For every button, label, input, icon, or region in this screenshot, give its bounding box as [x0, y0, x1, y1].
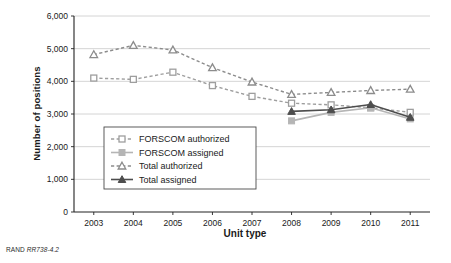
source-note-prefix: RAND: [6, 246, 27, 253]
x-tick-label: 2008: [282, 218, 301, 228]
x-tick-label: 2003: [84, 218, 103, 228]
y-tick-label: 4,000: [47, 76, 69, 86]
y-tick-label: 1,000: [47, 174, 69, 184]
y-tick-label: 6,000: [47, 11, 69, 21]
legend-label: FORSCOM assigned: [139, 148, 224, 158]
x-tick-label: 2004: [124, 218, 143, 228]
y-tick-labels: 01,0002,0003,0004,0005,0006,000: [47, 11, 74, 217]
legend-label: Total assigned: [139, 175, 197, 185]
chart-figure: Number of positions Unit type 01,0002,00…: [0, 0, 451, 263]
y-tick-label: 5,000: [47, 44, 69, 54]
y-tick-label: 2,000: [47, 142, 69, 152]
x-tick-label: 2010: [361, 218, 380, 228]
source-note: RAND RR738-4.2: [6, 246, 59, 253]
legend-label: FORSCOM authorized: [139, 134, 230, 144]
x-tick-label: 2005: [163, 218, 182, 228]
chart-legend: FORSCOM authorizedFORSCOM assignedTotal …: [104, 127, 256, 189]
x-tick-label: 2009: [322, 218, 341, 228]
x-tick-labels: 200320042005200620072008200920102011: [84, 212, 419, 228]
x-tick-label: 2011: [401, 218, 420, 228]
y-tick-label: 3,000: [47, 109, 69, 119]
line-chart: 01,0002,0003,0004,0005,0006,000 20032004…: [0, 0, 451, 263]
x-tick-label: 2006: [203, 218, 222, 228]
source-note-id: RR738-4.2: [27, 246, 59, 253]
legend-label: Total authorized: [139, 161, 203, 171]
y-tick-label: 0: [63, 207, 68, 217]
x-tick-label: 2007: [243, 218, 262, 228]
